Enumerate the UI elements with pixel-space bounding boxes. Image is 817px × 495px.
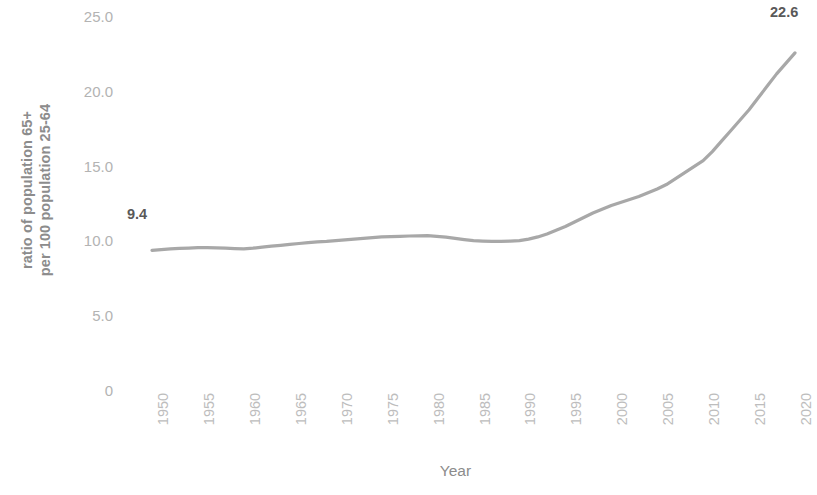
y-axis-tick-5-0: 5.0: [55, 308, 113, 324]
x-axis-tick-2005: 2005: [660, 380, 678, 438]
x-axis-tick-1965: 1965: [293, 380, 311, 438]
data-label-last: 22.6: [770, 4, 798, 20]
x-axis-tick-2000: 2000: [614, 380, 632, 438]
data-label-first: 9.4: [127, 206, 147, 222]
y-axis-title-line-2: per 100 population 25-64: [37, 40, 55, 340]
plot-area: 9.4 22.6: [120, 0, 817, 400]
y-axis-title-line-1: ratio of population 65+: [19, 40, 37, 340]
x-axis-tick-1980: 1980: [431, 380, 449, 438]
x-axis-tick-labels: 1950195519601965197019751980198519901995…: [120, 400, 817, 458]
y-axis-tick-15-0: 15.0: [55, 159, 113, 175]
line-chart-figure: ratio of population 65+ per 100 populati…: [0, 0, 817, 495]
x-axis-tick-1970: 1970: [339, 380, 357, 438]
y-axis-tick-0: 0: [55, 383, 113, 399]
x-axis-title-label: Year: [440, 462, 471, 479]
x-axis-tick-2020: 2020: [798, 380, 816, 438]
x-axis-tick-2015: 2015: [752, 380, 770, 438]
x-axis-tick-1990: 1990: [522, 380, 540, 438]
x-axis-tick-1995: 1995: [568, 380, 586, 438]
y-axis-tick-25-0: 25.0: [55, 9, 113, 25]
x-axis-tick-1985: 1985: [477, 380, 495, 438]
x-axis-tick-1960: 1960: [247, 380, 265, 438]
y-axis-tick-10-0: 10.0: [55, 233, 113, 249]
x-axis-tick-2010: 2010: [706, 380, 724, 438]
series-line: [120, 0, 817, 400]
y-axis-tick-20-0: 20.0: [55, 84, 113, 100]
y-axis-title: ratio of population 65+ per 100 populati…: [0, 0, 62, 400]
y-axis-tick-labels: 25.020.015.010.05.00: [55, 0, 113, 400]
x-axis-tick-1955: 1955: [201, 380, 219, 438]
x-axis-title: Year: [0, 462, 817, 480]
x-axis-tick-1975: 1975: [385, 380, 403, 438]
x-axis-tick-1950: 1950: [155, 380, 173, 438]
